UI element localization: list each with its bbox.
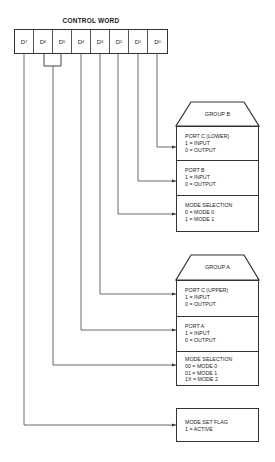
port-b-section: PORT B 1 = INPUT 0 = OUTPUT — [177, 160, 258, 195]
section-line: 1 = INPUT — [185, 330, 258, 337]
mode-set-flag-box: MODE SET FLAG 1 = ACTIVE — [176, 408, 259, 442]
group-b-header: GROUP B — [176, 111, 259, 117]
group-a-mode-selection-section: MODE SELECTION 00 = MODE 0 01 = MODE 1 1… — [177, 351, 258, 384]
section-line: 1 = MODE 1 — [185, 216, 258, 223]
section-line: 0 = OUTPUT — [185, 337, 258, 344]
group-a-header: GROUP A — [176, 264, 259, 270]
port-c-lower-section: PORT C (LOWER) 1 = INPUT 0 = OUTPUT — [177, 126, 258, 160]
section-title: MODE SELECTION — [185, 356, 258, 363]
section-title: PORT C (LOWER) — [185, 133, 258, 140]
section-line: 1 = INPUT — [185, 140, 258, 147]
port-c-upper-section: PORT C (UPPER) 1 = INPUT 0 = OUTPUT — [177, 280, 258, 316]
section-line: 0 = OUTPUT — [185, 147, 258, 154]
section-line: 1 = INPUT — [185, 174, 258, 181]
port-a-section: PORT A 1 = INPUT 0 = OUTPUT — [177, 316, 258, 351]
section-title: MODE SELECTION — [185, 202, 258, 209]
section-line: 01 = MODE 1 — [185, 370, 258, 377]
section-line: 0 = OUTPUT — [185, 181, 258, 188]
section-title: MODE SET FLAG — [185, 419, 258, 426]
section-line: 0 = OUTPUT — [185, 301, 258, 308]
section-title: PORT C (UPPER) — [185, 287, 258, 294]
section-line: 0 = MODE 0 — [185, 209, 258, 216]
section-line: 1 = INPUT — [185, 294, 258, 301]
group-a-box: PORT C (UPPER) 1 = INPUT 0 = OUTPUT PORT… — [176, 280, 259, 386]
mode-set-flag-section: MODE SET FLAG 1 = ACTIVE — [177, 409, 258, 433]
section-line: 00 = MODE 0 — [185, 363, 258, 370]
section-title: PORT B — [185, 167, 258, 174]
group-b-box: PORT C (LOWER) 1 = INPUT 0 = OUTPUT PORT… — [176, 126, 259, 232]
section-line: 1 = ACTIVE — [185, 426, 258, 433]
section-line: 1X = MODE 2 — [185, 376, 258, 383]
section-title: PORT A — [185, 323, 258, 330]
group-b-mode-selection-section: MODE SELECTION 0 = MODE 0 1 = MODE 1 — [177, 195, 258, 230]
